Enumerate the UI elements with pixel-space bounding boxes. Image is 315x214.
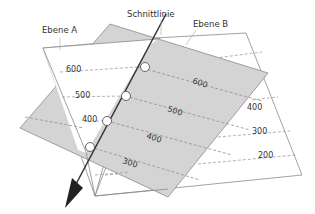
plane-b-contour-400: 400 [247, 103, 262, 112]
point-300 [86, 143, 95, 152]
diagram-canvas: Ebene A Ebene B Schnittlinie 600 500 400… [0, 0, 315, 214]
intersection-label: Schnittlinie [127, 9, 175, 19]
plane-intersection-diagram: Ebene A Ebene B Schnittlinie 600 500 400… [0, 0, 315, 214]
plane-b-contour-200: 200 [258, 151, 273, 160]
plane-a-contour-600: 600 [66, 65, 81, 74]
plane-a-label: Ebene A [42, 25, 77, 35]
plane-a-contour-400: 400 [82, 115, 97, 124]
plane-a-contour-500: 500 [75, 91, 90, 100]
arrowhead-icon [65, 178, 83, 208]
point-500 [122, 92, 131, 101]
plane-b-contour-300: 300 [252, 127, 267, 136]
plane-b-label: Ebene B [193, 19, 228, 29]
point-600 [141, 63, 150, 72]
point-400 [103, 117, 112, 126]
